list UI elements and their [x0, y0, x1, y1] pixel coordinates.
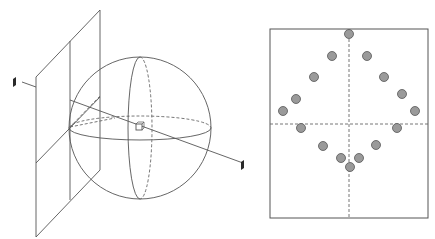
projected-point [292, 95, 301, 104]
projected-point [319, 142, 328, 151]
image-plane [36, 10, 100, 237]
projected-point [297, 124, 306, 133]
view-ray [70, 100, 243, 163]
projected-point [279, 107, 288, 116]
projected-point [393, 124, 402, 133]
sphere-projection-figure [13, 10, 244, 237]
projected-points-figure [270, 29, 428, 218]
projected-point [310, 73, 319, 82]
left-sensor-ray [22, 82, 36, 87]
projected-point [346, 163, 355, 172]
plane-horizontal-axis [36, 97, 100, 163]
diagram-canvas [0, 0, 435, 239]
projected-point [345, 30, 354, 39]
right-camera-sensor-icon [241, 160, 244, 170]
projected-point [328, 52, 337, 61]
projected-point [337, 154, 346, 163]
projected-point [372, 141, 381, 150]
projected-point [363, 52, 372, 61]
left-camera-sensor-icon [13, 77, 16, 87]
diagram-stage [0, 0, 435, 239]
projected-point [398, 90, 407, 99]
center-cube-icon [136, 124, 142, 130]
projected-point [355, 154, 364, 163]
projected-point [411, 107, 420, 116]
projected-point [380, 73, 389, 82]
